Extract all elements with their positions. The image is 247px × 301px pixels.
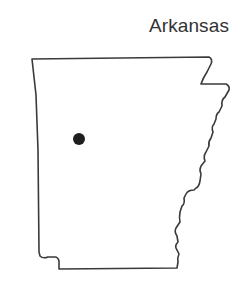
arkansas-outline <box>32 57 229 269</box>
location-marker-dot <box>73 133 85 145</box>
state-map <box>0 0 247 301</box>
